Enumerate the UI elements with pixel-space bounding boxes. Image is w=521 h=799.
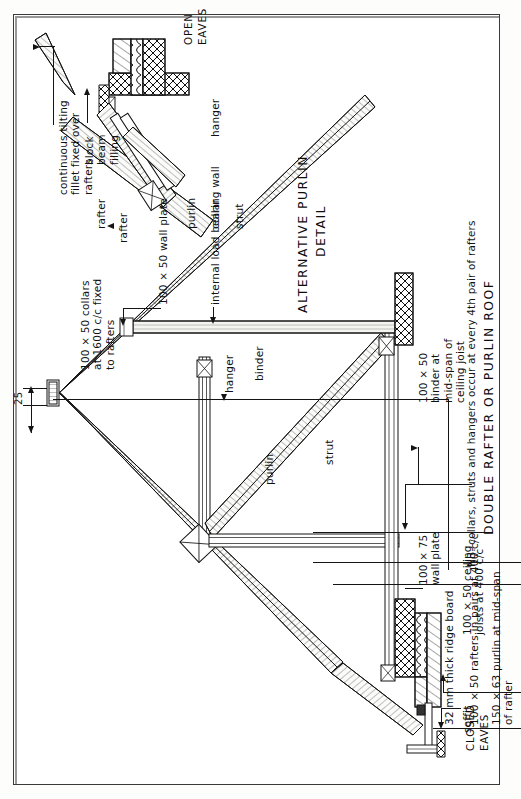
leader-tilting-h	[53, 47, 54, 125]
open-eaves-caption-line1: OPEN	[183, 13, 195, 45]
drawing-title: DOUBLE RAFTER OR PURLIN ROOF	[481, 280, 496, 535]
leader-soffit-arrow	[438, 722, 444, 729]
leader-fascia-v	[433, 728, 521, 729]
leader-block-h	[87, 93, 88, 123]
leader-cj-arrow	[402, 523, 408, 530]
drawing-note: NB. collars, struts and hangers occur at…	[465, 220, 477, 567]
label-detail-hanger: hanger	[209, 99, 221, 137]
leader-sprocket-v	[443, 692, 521, 693]
label-binder-main: binder	[253, 346, 265, 381]
leader-sprocket-arrow	[440, 674, 446, 681]
leader-wp75-v	[405, 588, 423, 589]
label-purlin-main: purlin	[263, 454, 275, 485]
leader-tilting-v	[39, 46, 55, 47]
label-rafter-main: rafter	[117, 213, 129, 243]
annotation-block-beam-filling: block beam filling	[83, 134, 120, 165]
annotation-purlin-midspan: 150 × 63 purlin at mid-span of rafter	[490, 571, 515, 725]
label-strut-main: strut	[323, 439, 335, 465]
leader-hanger-arrow	[221, 394, 227, 401]
leader-ridge-board	[448, 400, 449, 570]
leader-wp50-v	[123, 308, 161, 309]
annotation-binder-midspan: 100 × 50 binder at mid-span of ceiling j…	[417, 339, 467, 403]
label-detail-collar: collar	[209, 199, 221, 229]
leader-rafters-h	[418, 447, 419, 485]
leader-intwall-arrow	[210, 317, 216, 324]
label-detail-rafter: rafter	[95, 199, 107, 229]
dim-ext-line-a	[23, 388, 47, 389]
leader-intwall-h	[213, 307, 214, 317]
leader-soffit-h	[441, 709, 442, 723]
dim-ext-line-b	[23, 405, 47, 406]
annotation-ridge-board: 32 mm thick ridge board	[443, 590, 455, 725]
annotation-collars-1600: 100 × 50 collars at 1600 c/c fixed to ra…	[79, 279, 116, 370]
drawing-frame: 25 32 mm thick ridge board 100 × 50 raft…	[13, 14, 500, 785]
leader-tilting-arrow	[33, 44, 40, 50]
annotation-internal-wall: internal load bearing wall	[209, 166, 221, 305]
closed-eaves-caption-line1: CLOSED	[465, 704, 477, 751]
closed-eaves-caption-line2: EAVES	[479, 714, 491, 751]
leader-sprocket-h	[443, 679, 444, 693]
dimension-25-label: 25	[13, 392, 24, 405]
leader-block-arrow	[84, 88, 90, 95]
leader-soffit-v	[441, 708, 461, 709]
annotation-wall-plate-100x75: 100 × 75 wall plate	[417, 532, 442, 585]
leader-rafter-main-arrow	[107, 223, 114, 229]
leader-ridge-board-v	[53, 399, 449, 400]
leader-wp50-h	[123, 309, 124, 319]
leader-rafters-arrow	[411, 445, 418, 451]
leader-cj-h	[405, 485, 406, 523]
detail-title-line2: DETAIL	[313, 205, 328, 257]
label-hanger-main: hanger	[223, 355, 235, 393]
drawing-page: 25 32 mm thick ridge board 100 × 50 raft…	[0, 0, 521, 799]
label-detail-purlin: purlin	[185, 198, 197, 229]
open-eaves-caption-line2: EAVES	[197, 8, 209, 45]
drawing-sheet-landscape: 25 32 mm thick ridge board 100 × 50 raft…	[13, 14, 500, 785]
leader-cj-v	[405, 484, 463, 485]
annotation-wall-plate-100x50: 100 × 50 wall plate	[157, 198, 169, 305]
label-detail-strut: strut	[233, 203, 245, 229]
detail-title-line1: ALTERNATIVE PURLIN	[295, 155, 310, 313]
dim-arrow-left	[28, 426, 34, 433]
leader-wp50-arrow	[120, 319, 126, 326]
